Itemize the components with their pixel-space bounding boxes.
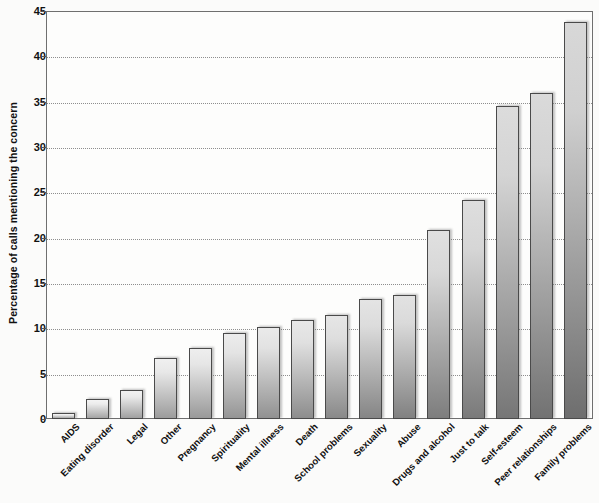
bar <box>530 93 553 419</box>
y-tick-label: 35 <box>6 96 46 108</box>
x-tick-label-text: Peer relationships <box>493 421 560 488</box>
x-axis-labels: AIDSEating disorderLegalOtherPregnancySp… <box>46 421 593 503</box>
bar <box>427 230 450 419</box>
y-tick-label: 20 <box>6 232 46 244</box>
y-tick-mark <box>42 419 46 420</box>
x-tick-label-text: Drugs and alcohol <box>390 421 457 488</box>
x-tick-label-text: Death <box>294 421 321 448</box>
x-tick-label-text: AIDS <box>57 421 81 445</box>
y-tick-label: 40 <box>6 50 46 62</box>
y-axis-title-text: Percentage of calls mentioning the conce… <box>7 102 19 324</box>
bar <box>52 413 75 419</box>
bar-chart: Percentage of calls mentioning the conce… <box>0 0 599 503</box>
x-tick-label-text: Legal <box>124 421 150 447</box>
x-tick-label-text: Other <box>158 421 184 447</box>
bars-layer <box>46 11 593 419</box>
y-tick-label: 15 <box>6 277 46 289</box>
y-tick-label: 0 <box>6 413 46 425</box>
bar <box>564 22 587 419</box>
y-tick-label: 10 <box>6 322 46 334</box>
x-tick-label-text: Abuse <box>394 421 423 450</box>
y-axis-title: Percentage of calls mentioning the conce… <box>0 0 26 425</box>
y-tick-label: 45 <box>6 5 46 17</box>
bar <box>462 200 485 419</box>
y-tick-label: 30 <box>6 141 46 153</box>
y-tick-label: 25 <box>6 186 46 198</box>
y-tick-label: 5 <box>6 368 46 380</box>
